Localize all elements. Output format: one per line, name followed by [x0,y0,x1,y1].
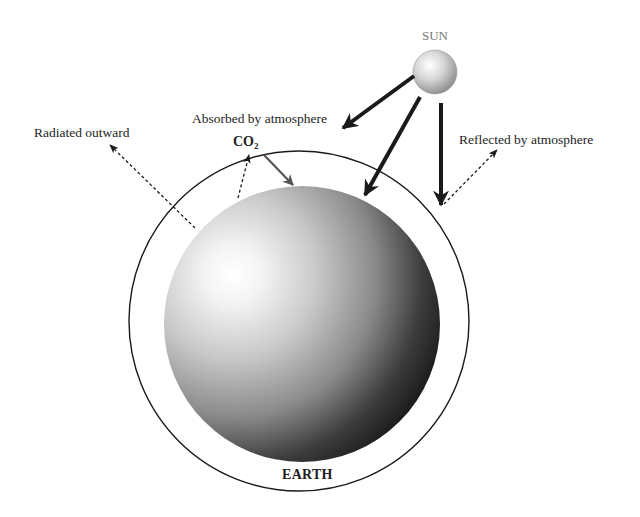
sun-sphere [413,50,457,94]
radiated-arrow [110,145,195,228]
diagram-canvas [0,0,640,517]
absorbed-arrow [343,76,414,128]
co2-label: CO2 [233,135,259,151]
greenhouse-diagram: SUN Absorbed by atmosphere Radiated outw… [0,0,640,517]
absorbed-label: Absorbed by atmosphere [192,112,327,126]
earth-label: EARTH [282,468,333,482]
co2-label-main: CO [233,134,254,149]
earth-sphere [164,186,440,462]
sun-label: SUN [422,29,448,42]
co2-label-subscript: 2 [254,141,259,151]
reflected-arrow [444,150,497,204]
radiated-label: Radiated outward [34,126,130,140]
sunlight-to-earth-arrow [365,97,420,195]
reflected-label: Reflected by atmosphere [459,133,593,147]
co2-back-radiation-arrow [264,155,293,185]
